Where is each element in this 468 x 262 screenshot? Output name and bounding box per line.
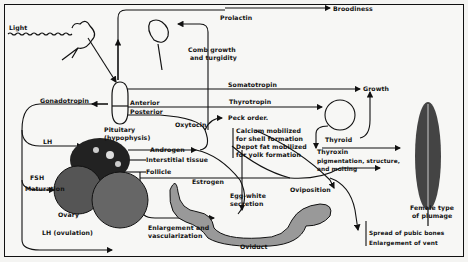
label-female-plumage-1: Female type xyxy=(410,204,454,212)
label-gonadotropin: Gonadotropin xyxy=(40,97,89,105)
label-pubic-bones: Spread of pubic bones xyxy=(369,229,444,237)
label-ovary: Ovary xyxy=(58,211,79,219)
label-estrogen: Estrogen xyxy=(192,178,224,186)
label-somatotropin: Somatotropin xyxy=(228,81,277,89)
label-oviduct: Oviduct xyxy=(240,243,268,251)
label-comb-2: and turgidity xyxy=(190,54,237,62)
label-lh: LH xyxy=(43,138,52,146)
label-fsh: FSH xyxy=(30,174,44,182)
label-thyroxin: Thyroxin xyxy=(317,148,348,156)
label-depot-1: Depot fat mobilized xyxy=(236,143,307,151)
label-oxytocin: Oxytocin xyxy=(175,121,207,129)
label-androgen: Androgen xyxy=(150,146,185,154)
label-comb-1: Comb growth xyxy=(188,46,236,54)
label-anterior: Anterior xyxy=(130,99,160,107)
label-oviposition: Oviposition xyxy=(290,186,331,194)
label-prolactin: Prolactin xyxy=(220,14,252,22)
label-interstitial: Interstitial tissue xyxy=(146,156,208,164)
label-broodiness: Broodiness xyxy=(333,5,373,13)
label-plumage-2: and molting xyxy=(317,165,357,173)
label-enlargement-1: Enlargement and xyxy=(148,224,209,232)
label-vent: Enlargement of vent xyxy=(369,239,438,247)
label-female-plumage-2: of plumage xyxy=(412,212,452,220)
label-light: Light xyxy=(9,24,27,32)
light-wave xyxy=(8,33,72,35)
label-posterior: Posterior xyxy=(130,108,163,116)
label-egg-white-2: secretion xyxy=(230,200,263,208)
label-enlargement-2: vascularization xyxy=(148,232,202,240)
label-maturation: Maturation xyxy=(25,185,65,193)
label-follicle: Follicle xyxy=(146,168,171,176)
diagram-arrows xyxy=(0,0,468,262)
label-plumage-1: pigmentation, structure, xyxy=(317,157,400,165)
label-egg-white-1: Egg-white xyxy=(230,192,266,200)
label-pituitary-1: Pituitary xyxy=(104,126,135,134)
label-growth: Growth xyxy=(363,85,389,93)
label-peck-order: Peck order. xyxy=(228,114,268,122)
pituitary-shape xyxy=(112,82,128,124)
label-calcium-1: Calcium mobilized xyxy=(236,127,301,135)
rooster-head xyxy=(62,20,168,70)
label-pituitary-2: (hypophysis) xyxy=(104,134,150,142)
label-lh-ovulation: LH (ovulation) xyxy=(42,229,93,237)
label-thyroid: Thyroid xyxy=(325,136,352,144)
label-calcium-2: for shell formation xyxy=(236,135,303,143)
label-depot-2: for yolk formation xyxy=(236,151,301,159)
label-thyrotropin: Thyrotropin xyxy=(229,98,271,106)
